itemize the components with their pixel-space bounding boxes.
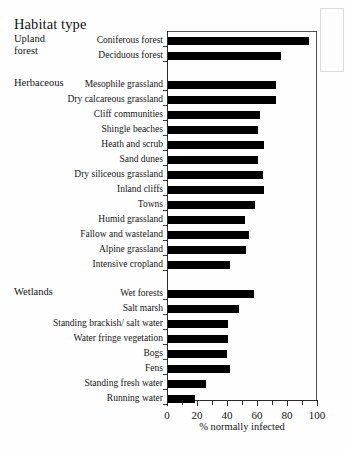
category-label: Heath and scrub: [101, 138, 163, 150]
x-tick-label: 20: [192, 409, 203, 421]
bar: [168, 81, 276, 89]
category-label: Cliff communities: [94, 108, 163, 120]
bar: [168, 261, 230, 269]
bar: [168, 126, 258, 134]
group-label-wetlands: Wetlands: [14, 286, 53, 298]
x-tick-minor: [242, 400, 243, 405]
x-tick-minor: [272, 400, 273, 405]
x-tick-major: [317, 400, 318, 406]
x-tick-major: [287, 400, 288, 406]
y-axis-tick: [163, 389, 167, 390]
bar: [168, 156, 258, 164]
bar: [168, 186, 264, 194]
y-axis-tick: [163, 61, 167, 62]
category-label: Water fringe vegetation: [74, 332, 163, 344]
x-tick-label: 80: [282, 409, 293, 421]
y-axis-tick: [163, 90, 167, 91]
category-label: Fens: [145, 362, 163, 374]
y-axis-tick: [163, 299, 167, 300]
x-tick-minor: [302, 400, 303, 405]
category-label: Inland cliffs: [117, 183, 163, 195]
x-tick-label: 60: [252, 409, 263, 421]
category-label: Deciduous forest: [98, 49, 163, 61]
group-label-upland-forest: Upland forest: [14, 33, 45, 56]
category-label: Fallow and wasteland: [80, 228, 163, 240]
y-axis-tick: [163, 46, 167, 47]
bar: [168, 335, 228, 343]
category-label: Salt marsh: [123, 302, 163, 314]
y-axis-tick: [163, 255, 167, 256]
category-label: Wet forests: [120, 287, 163, 299]
bar: [168, 96, 276, 104]
x-tick-minor: [212, 400, 213, 405]
y-axis-tick: [163, 165, 167, 166]
y-axis-tick: [163, 105, 167, 106]
x-tick-label: 100: [309, 409, 326, 421]
page-title: Habitat type: [14, 16, 86, 33]
category-label: Towns: [138, 198, 163, 210]
x-tick-label: 0: [164, 409, 170, 421]
y-axis-tick: [163, 210, 167, 211]
y-axis-tick: [163, 195, 167, 196]
y-axis-tick: [163, 314, 167, 315]
bar: [168, 201, 255, 209]
x-tick-major: [257, 400, 258, 406]
category-label: Humid grassland: [98, 213, 163, 225]
bar: [168, 111, 260, 119]
bar: [168, 37, 309, 45]
plot-frame-right: [316, 31, 317, 401]
category-label: Standing brackish/ salt water: [53, 317, 163, 329]
y-axis-tick: [163, 329, 167, 330]
y-axis-tick: [163, 374, 167, 375]
y-axis-tick: [163, 120, 167, 121]
category-label: Dry calcareous grassland: [68, 93, 164, 105]
category-label: Sand dunes: [119, 153, 163, 165]
x-tick-minor: [182, 400, 183, 405]
category-label: Bogs: [143, 347, 163, 359]
category-label: Dry siliceous grassland: [74, 168, 163, 180]
chart-page: Habitat type Coniferous forestDeciduous …: [0, 0, 346, 450]
y-axis-tick: [163, 344, 167, 345]
y-axis-tick: [163, 180, 167, 181]
y-axis-tick: [163, 150, 167, 151]
y-axis-tick: [163, 270, 167, 271]
bar: [168, 246, 246, 254]
y-axis-tick: [163, 225, 167, 226]
x-tick-major: [227, 400, 228, 406]
category-label: Alpine grassland: [99, 243, 163, 255]
bar: [168, 52, 281, 60]
category-label: Intensive cropland: [93, 258, 163, 270]
bar: [168, 141, 264, 149]
x-tick-major: [167, 400, 168, 406]
plot-area: Coniferous forestDeciduous forestMesophi…: [167, 31, 317, 401]
bar: [168, 350, 227, 358]
bar: [168, 171, 263, 179]
bar: [168, 365, 230, 373]
category-label: Mesophile grassland: [85, 78, 163, 90]
category-label: Coniferous forest: [97, 34, 163, 46]
category-label: Running water: [107, 392, 163, 404]
scan-artifact: [320, 8, 344, 72]
bar: [168, 320, 228, 328]
x-axis-label: % normally infected: [167, 421, 317, 432]
x-tick-label: 40: [222, 409, 233, 421]
plot-frame-top: [167, 31, 317, 32]
category-label: Shingle beaches: [102, 123, 163, 135]
y-axis-tick: [163, 240, 167, 241]
bar: [168, 231, 249, 239]
bar: [168, 290, 254, 298]
bar: [168, 380, 206, 388]
category-label: Standing fresh water: [84, 377, 163, 389]
bar: [168, 216, 245, 224]
group-label-herbaceous: Herbaceous: [14, 77, 64, 89]
y-axis-tick: [163, 359, 167, 360]
bar: [168, 305, 239, 313]
x-tick-major: [197, 400, 198, 406]
y-axis-tick: [163, 135, 167, 136]
